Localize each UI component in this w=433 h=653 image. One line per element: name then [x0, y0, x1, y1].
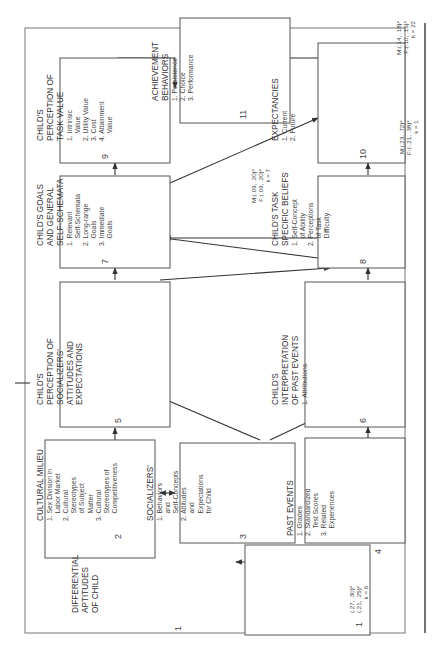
box-list-item: Expectations: [197, 447, 205, 521]
box-number: 4: [373, 549, 384, 554]
box-title-line: CHILD'S: [36, 286, 46, 405]
box-number: 5: [113, 418, 124, 423]
box-list-item: Self-Concepts: [172, 447, 180, 521]
box-11-label: 11ACHIEVEMENTBEHAVIORS1. Persistence2. C…: [151, 22, 249, 115]
box-title-line: CHILD'S GOALS: [36, 180, 46, 246]
path-stat-task_beliefs_to_task_value: M:(.09, .20)* F:(.09, .20)* k = 7: [250, 169, 271, 203]
box-list-item: Matter: [87, 442, 95, 521]
box-title-line: BEHAVIORS: [161, 22, 171, 101]
box-7-label: 7CHILD'S GOALSAND GENERALSELF-SCHEMATA1.…: [36, 180, 111, 260]
box-list-item: 2. Choice: [179, 22, 187, 101]
box-list-item: Goals: [106, 180, 114, 246]
box-list-item: 2. Utility Value: [82, 47, 90, 141]
box-4-label: 4PAST EVENTS1. Grades2. Standardized Tes…: [286, 444, 384, 550]
box-list-item: 2. Attitudes: [180, 447, 188, 521]
box-list-item: 1. Intrinsic: [66, 47, 74, 141]
box-title-line: OF CHILD: [91, 549, 101, 613]
box-title-line: OF PAST EVENTS: [291, 286, 301, 405]
path-stat-aptitudes_to_past_events: (.27, .30)* (.21, .25)* k = 6: [348, 586, 369, 613]
box-list-item: Stereotypes: [70, 442, 78, 521]
box-list-item: of Task: [315, 180, 323, 246]
box-number: 3: [238, 534, 249, 539]
box-list-item: Experiences: [328, 444, 336, 536]
box-title-line: TASK VALUE: [56, 47, 66, 141]
box-list-item: 1. Behaviors: [156, 447, 164, 521]
box-list-item: Test Scores: [312, 444, 320, 536]
box-number: 1: [173, 626, 184, 631]
diagram-stage: 1 1DIFFERENTIALAPTITUDESOF CHILD2CULTURA…: [0, 0, 433, 653]
box-title-line: SOCIALIZERS': [56, 286, 66, 405]
box-list-item: 3. Immediate: [98, 180, 106, 246]
box-list-item: 3. Cultural: [95, 442, 103, 521]
box-list-item: 1. Relevant: [66, 180, 74, 246]
box-title-line: CHILD'S TASK: [271, 180, 281, 246]
box-number: 7: [100, 259, 111, 264]
box-10-label: 10EXPECTANCIES1. Current2. Future: [271, 62, 369, 155]
box-list-item: Stereotypes of: [103, 442, 111, 521]
box-title-line: CHILD'S: [271, 286, 281, 405]
box-title-line: SPECIFIC BELIEFS: [281, 180, 291, 246]
box-list-item: 3. Cost: [90, 47, 98, 141]
box-list-item: Self-Schemata: [74, 180, 82, 246]
box-title-line: CHILD'S: [36, 47, 46, 141]
box-list-item: and: [188, 447, 196, 521]
box-list-item: Competitiveness: [111, 442, 119, 521]
box-list-item: and: [164, 447, 172, 521]
box-3-label: 3SOCIALIZERS'1. Behaviors and Self-Conce…: [146, 447, 249, 535]
box-number: 6: [358, 418, 369, 423]
box-title-line: PAST EVENTS: [286, 444, 296, 536]
box-title-line: AND GENERAL: [46, 180, 56, 246]
box-list-item: 1. Self-Concept: [291, 180, 299, 246]
box-title-line: PERCEPTION OF: [46, 47, 56, 141]
box-list-item: 2. Perceptions: [307, 180, 315, 246]
box-5-label: 5CHILD'SPERCEPTION OFSOCIALIZERS'ATTITUD…: [36, 286, 124, 419]
box-list-item: 1. Attributions: [301, 286, 309, 405]
box-1-label: 1DIFFERENTIALAPTITUDESOF CHILD: [71, 549, 184, 627]
box-list-item: 1. Sex Division in: [46, 442, 54, 521]
box-list-item: 2. Future: [289, 62, 297, 141]
box-title-line: APTITUDES: [81, 549, 91, 613]
box-title-line: ATTITUDES AND: [66, 286, 76, 405]
box-list-item: Difficulty: [323, 180, 331, 246]
box-1-number: 1: [354, 622, 364, 627]
path-stat-task_beliefs_to_expectancies: M:(.23, .72)* F:(-.21, .38)* k = 1: [398, 120, 419, 155]
box-list-item: 4. Attainment: [98, 47, 106, 141]
path-stat-task_value_to_achievement: M:(.14, .18)* F:(.10, .15)* k = 22: [395, 21, 416, 55]
box-list-item: 1. Current: [281, 62, 289, 141]
box-list-item: of Subject: [78, 442, 86, 521]
box-title-line: ACHIEVEMENT: [151, 22, 161, 101]
box-list-item: Labor Market: [54, 442, 62, 521]
box-list-item: 2. Standardized: [304, 444, 312, 536]
box-2-label: 2CULTURAL MILIEU1. Sex Division in Labor…: [36, 442, 124, 535]
box-title-line: SOCIALIZERS': [146, 447, 156, 521]
box-title-line: PERCEPTION OF: [46, 286, 56, 405]
box-list-item: Goals: [90, 180, 98, 246]
box-list-item: for Child: [205, 447, 213, 521]
box-number: 11: [238, 110, 249, 119]
box-title-line: INTERPRETATION: [281, 286, 291, 405]
box-list-item: Value: [106, 47, 114, 141]
box-number: 10: [358, 149, 369, 159]
box-title-line: EXPECTATIONS: [75, 286, 85, 405]
box-title-line: SELF-SCHEMATA: [56, 180, 66, 246]
box-list-item: 2. Long-range: [82, 180, 90, 246]
box-list-item: of Ability: [299, 180, 307, 246]
box-list-item: 1. Persistence: [171, 22, 179, 101]
box-title-line: EXPECTANCIES: [271, 62, 281, 141]
box-list-item: 2. Cultural: [62, 442, 70, 521]
box-list-item: 1. Grades: [296, 444, 304, 536]
box-8-label: 8CHILD'S TASKSPECIFIC BELIEFS1. Self-Con…: [271, 180, 369, 260]
box-number: 2: [113, 534, 124, 539]
box-list-item: 3. Performance: [187, 22, 195, 101]
box-list-item: 3. Related: [320, 444, 328, 536]
box-9-label: 9CHILD'SPERCEPTION OFTASK VALUE1. Intrin…: [36, 47, 111, 155]
box-title-line: DIFFERENTIAL: [71, 549, 81, 613]
box-list-item: Value: [74, 47, 82, 141]
box-6-label: 6CHILD'SINTERPRETATIONOF PAST EVENTS1. A…: [271, 286, 369, 419]
box-number: 8: [358, 259, 369, 264]
box-title-line: CULTURAL MILIEU: [36, 442, 46, 521]
box-number: 9: [100, 154, 111, 159]
